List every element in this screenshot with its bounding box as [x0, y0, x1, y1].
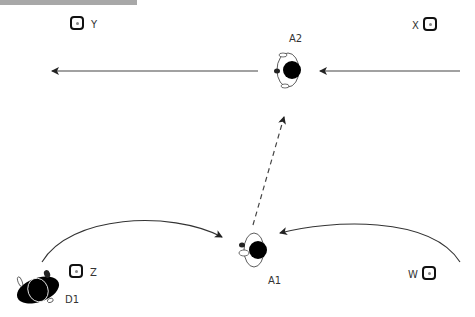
player-a1-label: A1: [268, 276, 281, 286]
player-d1-icon: [11, 265, 64, 313]
cone-x-label: X: [412, 21, 419, 31]
cone-z-label: Z: [90, 268, 97, 278]
cone-z-icon: [69, 264, 83, 278]
curved-arrow-w-a1: [280, 224, 460, 262]
player-a2-label: A2: [289, 34, 302, 44]
player-d1-label: D1: [65, 295, 79, 305]
player-a1-icon: [239, 233, 267, 267]
cone-y-label: Y: [91, 20, 97, 30]
player-a2-icon: [274, 53, 301, 88]
curved-arrow-d1-a1: [42, 221, 222, 262]
cone-w-icon: [422, 266, 436, 280]
cone-w-label: W: [408, 270, 418, 280]
cone-x-icon: [423, 17, 437, 31]
cone-y-icon: [70, 16, 84, 30]
dashed-pass-arrow: [253, 117, 284, 225]
